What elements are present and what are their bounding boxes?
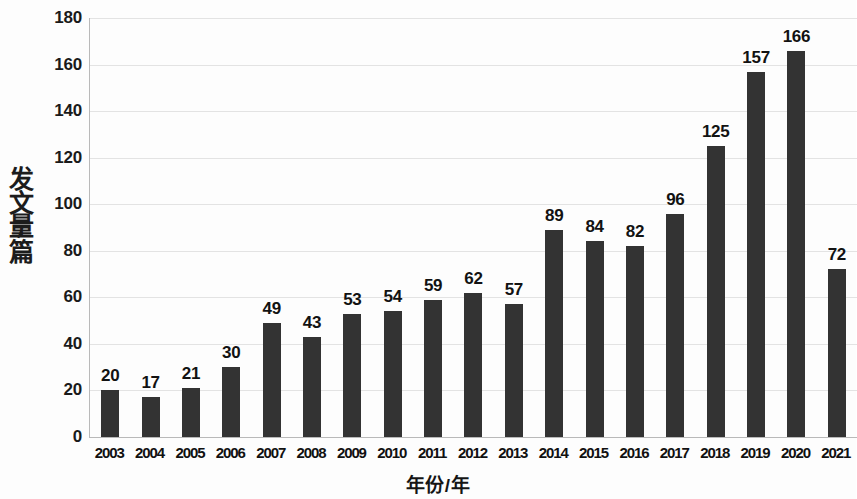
bar-value-label: 30 [222, 343, 240, 363]
x-axis-tick-label: 2006 [210, 444, 250, 461]
bar-slot: 72 [817, 18, 857, 437]
y-axis-tick-label: 60 [40, 287, 82, 307]
y-axis-tick-label: 40 [40, 334, 82, 354]
y-axis-title-char-3-row: 量 / [4, 215, 38, 241]
bar-slot: 30 [211, 18, 251, 437]
bar-value-label: 21 [182, 364, 200, 384]
x-axis-tick-label: 2021 [816, 444, 856, 461]
y-axis-tick-label: 180 [40, 8, 82, 28]
x-axis-tick-label: 2017 [654, 444, 694, 461]
bar[interactable] [747, 72, 765, 437]
bar[interactable] [505, 304, 523, 437]
x-axis-tick-label: 2012 [452, 444, 492, 461]
bar[interactable] [101, 390, 119, 437]
x-axis-tick-label: 2013 [493, 444, 533, 461]
bar-slot: 84 [574, 18, 614, 437]
bar-value-label: 57 [505, 280, 523, 300]
bar-value-label: 59 [424, 276, 442, 296]
bar-value-label: 166 [783, 27, 810, 47]
bar[interactable] [182, 388, 200, 437]
bar-value-label: 72 [828, 245, 846, 265]
bar[interactable] [142, 397, 160, 437]
bar[interactable] [586, 241, 604, 437]
bar[interactable] [828, 269, 846, 437]
x-axis-tick-label: 2019 [735, 444, 775, 461]
bar-slot: 166 [776, 18, 816, 437]
bar-slot: 43 [292, 18, 332, 437]
x-axis-tick-label: 2011 [412, 444, 452, 461]
y-axis-tick-label: 120 [40, 148, 82, 168]
x-axis-tick-labels: 2003200420052006200720082009201020112012… [89, 444, 856, 468]
bar-slot: 62 [453, 18, 493, 437]
bar-value-label: 17 [141, 373, 159, 393]
x-axis-tick-label: 2005 [170, 444, 210, 461]
y-axis-tick-label: 100 [40, 194, 82, 214]
bar-value-label: 157 [742, 48, 769, 68]
y-axis-title-unit: 篇 [4, 241, 38, 265]
bar[interactable] [787, 51, 805, 437]
y-axis-title: 发 文 量 / 篇 [4, 168, 38, 265]
x-axis-tick-label: 2004 [129, 444, 169, 461]
x-axis-tick-label: 2007 [250, 444, 290, 461]
bar[interactable] [263, 323, 281, 437]
bar[interactable] [464, 293, 482, 437]
bar-slot: 89 [534, 18, 574, 437]
bar-value-label: 54 [384, 287, 402, 307]
bar-slot: 17 [130, 18, 170, 437]
bar[interactable] [384, 311, 402, 437]
y-axis-tick-label: 0 [40, 427, 82, 447]
y-axis-tick-labels: 180160140120100806040200 [38, 0, 82, 499]
bar-value-label: 43 [303, 313, 321, 333]
x-axis-tick-label: 2003 [89, 444, 129, 461]
bar[interactable] [545, 230, 563, 437]
x-axis-tick-label: 2009 [331, 444, 371, 461]
bar-slot: 21 [171, 18, 211, 437]
bar-slot: 157 [736, 18, 776, 437]
bar-slot: 96 [655, 18, 695, 437]
bar-value-label: 62 [464, 269, 482, 289]
bar-slot: 49 [251, 18, 291, 437]
bar-slot: 54 [373, 18, 413, 437]
bar-value-label: 125 [702, 122, 729, 142]
bar[interactable] [707, 146, 725, 437]
y-axis-tick-label: 140 [40, 101, 82, 121]
x-axis-tick-label: 2010 [372, 444, 412, 461]
bar[interactable] [303, 337, 321, 437]
bar-value-label: 89 [545, 206, 563, 226]
bar-series: 2017213049435354596257898482961251571667… [90, 18, 857, 437]
bar-value-label: 53 [343, 290, 361, 310]
y-axis-tick-label: 20 [40, 380, 82, 400]
bar-value-label: 84 [585, 217, 603, 237]
y-axis-title-char-1: 发 [4, 168, 38, 192]
y-axis-tick-label: 160 [40, 55, 82, 75]
bar-slot: 53 [332, 18, 372, 437]
bar[interactable] [424, 300, 442, 437]
x-axis-tick-label: 2018 [695, 444, 735, 461]
bar-slot: 20 [90, 18, 130, 437]
x-axis-tick-label: 2020 [775, 444, 815, 461]
bar-slot: 59 [413, 18, 453, 437]
x-axis-title: 年份/年 [0, 470, 856, 497]
bar[interactable] [343, 314, 361, 437]
plot-area: 2017213049435354596257898482961251571667… [89, 18, 857, 438]
bar-slot: 57 [494, 18, 534, 437]
x-axis-tick-label: 2014 [533, 444, 573, 461]
y-axis-tick-label: 80 [40, 241, 82, 261]
bar-value-label: 20 [101, 366, 119, 386]
x-axis-tick-label: 2015 [573, 444, 613, 461]
bar-slot: 125 [696, 18, 736, 437]
bar-value-label: 49 [262, 299, 280, 319]
bar[interactable] [222, 367, 240, 437]
bar-value-label: 96 [666, 190, 684, 210]
bar-value-label: 82 [626, 222, 644, 242]
bar-slot: 82 [615, 18, 655, 437]
bar[interactable] [626, 246, 644, 437]
bar[interactable] [666, 214, 684, 437]
x-axis-tick-label: 2008 [291, 444, 331, 461]
x-axis-tick-label: 2016 [614, 444, 654, 461]
